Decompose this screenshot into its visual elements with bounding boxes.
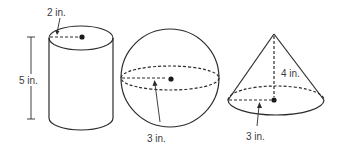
geometric-solids-diagram: 5 in. 2 in. 3 in.: [0, 0, 337, 156]
cylinder-height-dimension: 5 in.: [19, 37, 44, 119]
cone: 4 in. 3 in.: [228, 34, 324, 142]
cylinder: 5 in. 2 in.: [19, 7, 113, 130]
cone-height-label: 4 in.: [281, 68, 300, 79]
cylinder-center-dot: [79, 34, 84, 39]
sphere: 3 in.: [121, 29, 219, 144]
sphere-center-dot: [168, 76, 173, 81]
cone-center-dot: [271, 97, 276, 102]
sphere-radius-label: 3 in.: [147, 133, 166, 144]
cone-radius-label: 3 in.: [246, 131, 265, 142]
cylinder-height-label: 5 in.: [19, 75, 38, 86]
cylinder-radius-label: 2 in.: [47, 7, 66, 18]
